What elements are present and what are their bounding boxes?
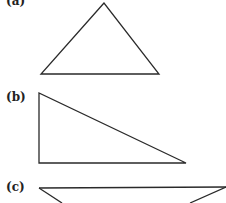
triangles-canvas — [0, 0, 226, 203]
triangle-a-acute — [41, 3, 159, 74]
triangle-b-right — [39, 93, 186, 163]
triangle-c-obtuse-group — [39, 187, 226, 203]
